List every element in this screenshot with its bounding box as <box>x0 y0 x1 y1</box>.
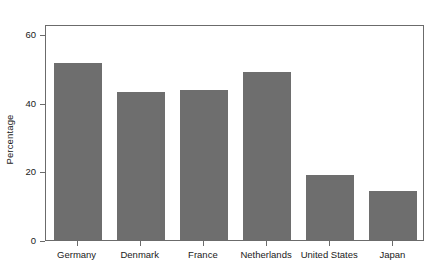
bar <box>306 175 354 240</box>
x-tick-label: Germany <box>57 250 96 260</box>
bar <box>54 63 102 240</box>
y-tick-label: 60 <box>25 31 36 41</box>
bar <box>117 92 165 240</box>
y-axis-title: Percentage <box>0 0 18 279</box>
x-tick-label: Netherlands <box>240 250 291 260</box>
x-tick-mark <box>392 241 393 246</box>
x-tick-mark <box>77 241 78 246</box>
y-tick-label: 20 <box>25 168 36 178</box>
bars-layer <box>46 26 423 240</box>
bar <box>243 72 291 240</box>
bar-chart-figure: Percentage 0204060 GermanyDenmarkFranceN… <box>0 0 430 279</box>
bar <box>369 191 417 240</box>
x-tick-mark <box>329 241 330 246</box>
x-tick-label: France <box>188 250 218 260</box>
y-tick-label: 0 <box>31 236 36 246</box>
x-tick-mark <box>266 241 267 246</box>
y-tick-label: 40 <box>25 99 36 109</box>
bar <box>180 90 228 240</box>
x-tick-label: Denmark <box>120 250 159 260</box>
plot-area-frame <box>45 25 424 241</box>
x-tick-label: Japan <box>379 250 405 260</box>
y-tick-mark <box>40 241 45 242</box>
x-tick-mark <box>140 241 141 246</box>
x-tick-mark <box>203 241 204 246</box>
x-tick-label: United States <box>301 250 358 260</box>
